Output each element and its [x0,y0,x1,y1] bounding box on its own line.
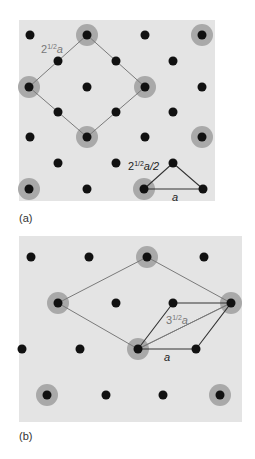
lattice-point [141,83,150,92]
lattice-point [18,345,27,354]
lattice-point [54,299,63,308]
lattice-point [134,345,143,354]
lattice-point [25,83,34,92]
lattice-point [85,253,94,262]
lattice-point [54,159,63,168]
lattice-point [26,31,35,40]
lattice-constant-label: a [172,191,178,203]
lattice-point [192,345,201,354]
panel-b-label: (b) [19,430,32,442]
lattice-point [141,133,150,142]
lattice-point [54,108,63,117]
lattice-point [198,133,207,142]
lattice-point [200,253,209,262]
lattice-point [102,391,111,400]
lattice-point [54,57,63,66]
lattice-point [169,299,178,308]
lattice-point [169,57,178,66]
lattice-diagram: 21/2a21/2a/2a 31/2aa [0,0,255,459]
lattice-point [83,31,92,40]
lattice-point [112,57,121,66]
lattice-point [140,185,149,194]
panel-b-hexagonal-lattice: 31/2aa [18,236,243,422]
lattice-point [159,391,168,400]
lattice-point [141,31,150,40]
lattice-point [26,133,35,142]
panel-a-label: (a) [19,212,32,224]
lattice-point [83,185,92,194]
lattice-point [169,159,178,168]
lattice-point [112,159,121,168]
lattice-point [25,185,34,194]
lattice-point [169,108,178,117]
lattice-point [199,185,208,194]
lattice-point [76,345,85,354]
triangle-edge-label: 21/2a/2 [128,160,159,172]
lattice-constant-label: a [164,351,170,363]
lattice-point [83,133,92,142]
lattice-point [112,299,121,308]
lattice-point [83,83,92,92]
lattice-point [227,299,236,308]
lattice-point [143,253,152,262]
lattice-point [216,391,225,400]
lattice-point [43,391,52,400]
lattice-point [112,108,121,117]
lattice-point [198,31,207,40]
lattice-point [27,253,36,262]
panel-a-square-lattice: 21/2a21/2a/2a [18,20,215,203]
lattice-point [198,83,207,92]
